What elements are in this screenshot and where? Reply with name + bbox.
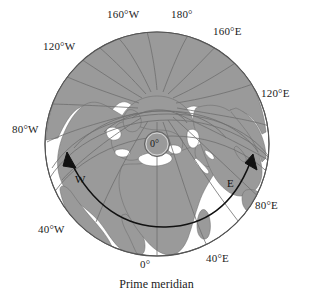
label-180: 180° [171, 9, 193, 20]
label-160w: 160°W [107, 9, 139, 20]
madagascar [197, 209, 210, 239]
caspian-sea [187, 129, 199, 148]
label-120e: 120°E [261, 88, 290, 99]
east-arrow-label: E [227, 177, 234, 189]
globe-figure: 160°W 180° 160°E 120°W 120°E 80°W 80°E 4… [0, 0, 313, 299]
west-arrow-label: W [75, 173, 85, 185]
label-80w: 80°W [12, 124, 39, 135]
label-160e: 160°E [213, 26, 242, 37]
label-40e: 40°E [206, 253, 229, 264]
label-40w: 40°W [38, 224, 65, 235]
figure-caption: Prime meridian [0, 277, 313, 292]
label-80e: 80°E [255, 200, 278, 211]
label-0: 0° [140, 259, 150, 270]
label-120w: 120°W [43, 41, 75, 52]
pole-label: 0° [150, 138, 159, 149]
